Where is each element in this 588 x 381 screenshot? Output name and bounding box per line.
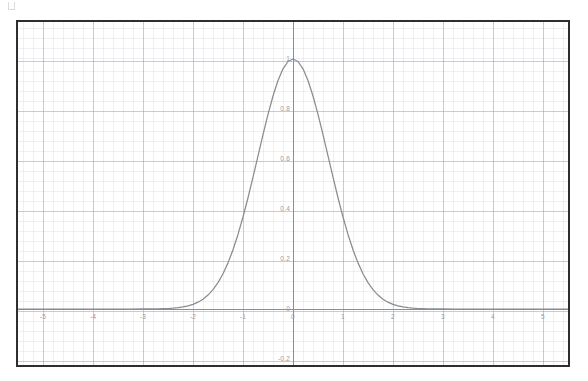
x-tick-label: 5 — [541, 314, 545, 321]
x-tick-label: -2 — [190, 314, 196, 321]
y-tick-label: 0.2 — [274, 256, 290, 263]
x-tick-label: -3 — [140, 314, 146, 321]
y-tick-label: -0.2 — [274, 356, 290, 363]
x-tick-label: 1 — [341, 314, 345, 321]
x-tick-label: -5 — [40, 314, 46, 321]
y-tick-label: 1 — [274, 56, 290, 63]
plot-area: -5-4-3-2-1012345 10.80.60.40.20-0.2 — [18, 22, 568, 365]
y-tick-label: 0.6 — [274, 156, 290, 163]
gaussian-curve-path — [18, 59, 568, 309]
x-tick-label: 3 — [441, 314, 445, 321]
corner-artifact-mark — [8, 2, 15, 10]
x-tick-label: -4 — [90, 314, 96, 321]
y-tick-label: 0.8 — [274, 106, 290, 113]
x-tick-label: 2 — [391, 314, 395, 321]
chart-frame: -5-4-3-2-1012345 10.80.60.40.20-0.2 — [16, 20, 570, 367]
x-tick-label: 4 — [491, 314, 495, 321]
chart-screenshot: -5-4-3-2-1012345 10.80.60.40.20-0.2 — [0, 0, 588, 381]
y-tick-label: 0 — [274, 306, 290, 313]
y-tick-label: 0.4 — [274, 206, 290, 213]
x-tick-label: 0 — [291, 314, 295, 321]
x-tick-label: -1 — [240, 314, 246, 321]
